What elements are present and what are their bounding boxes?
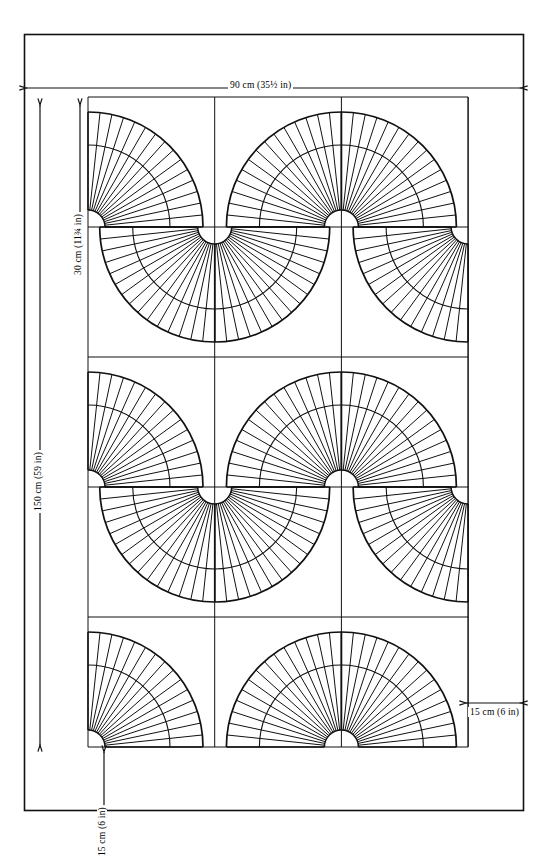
arrowhead xyxy=(459,701,466,705)
fan-spoke xyxy=(350,127,399,212)
fan-hub-arc xyxy=(341,210,358,227)
fan-spoke xyxy=(411,242,460,327)
fan-block xyxy=(88,372,203,487)
height-dimension-arrow xyxy=(38,98,42,751)
fan-spoke xyxy=(284,127,333,212)
fan-spoke xyxy=(356,690,441,739)
arrowhead xyxy=(78,98,82,105)
fan-spoke xyxy=(242,690,327,739)
fan-block xyxy=(341,632,456,747)
fan-outer-arc xyxy=(353,227,468,342)
fan-spoke xyxy=(284,647,333,732)
fan-block xyxy=(226,112,341,227)
bottom-margin-label: 15 cm (6 in) xyxy=(97,805,107,858)
fan-outer-arc xyxy=(341,372,456,487)
fan-outer-arc xyxy=(341,112,456,227)
fan-block xyxy=(215,227,330,342)
fan-spoke xyxy=(115,236,200,285)
fan-hub-arc xyxy=(215,227,232,244)
fan-spoke xyxy=(103,430,188,479)
fan-spoke xyxy=(350,647,399,732)
fan-spoke xyxy=(103,170,188,219)
fan-block xyxy=(341,372,456,487)
fan-outer-arc xyxy=(88,372,203,487)
height-dimension-label: 150 cm (59 in) xyxy=(33,450,43,513)
fan-hub-arc xyxy=(88,470,105,487)
fan-spoke xyxy=(411,502,460,587)
fan-outer-arc xyxy=(88,632,203,747)
fan-spoke xyxy=(157,242,206,327)
fan-block xyxy=(353,227,468,342)
fan-outer-arc xyxy=(88,112,203,227)
fan-spoke xyxy=(356,430,441,479)
arrowhead xyxy=(38,745,42,752)
fan-outer-arc xyxy=(353,487,468,602)
fan-hub-arc xyxy=(324,730,341,747)
fan-spoke xyxy=(229,496,314,545)
fan-block xyxy=(100,227,215,342)
fan-spoke xyxy=(242,170,327,219)
arrowhead xyxy=(521,701,528,705)
width-dimension-label: 90 cm (35½ in) xyxy=(228,80,293,90)
fan-spoke xyxy=(350,387,399,472)
fan-block xyxy=(100,487,215,602)
fan-outer-arc xyxy=(215,487,330,602)
fan-spoke xyxy=(103,690,188,739)
arrowhead xyxy=(102,745,106,752)
fan-spoke xyxy=(369,236,454,285)
fan-hub-arc xyxy=(88,210,105,227)
fan-outer-arc xyxy=(100,227,215,342)
fan-hub-arc xyxy=(215,487,232,504)
fan-hub-arc xyxy=(324,470,341,487)
fan-hub-arc xyxy=(341,470,358,487)
arrowhead xyxy=(521,86,528,90)
fan-block xyxy=(88,112,203,227)
fan-spoke xyxy=(284,387,333,472)
fan-spoke xyxy=(115,496,200,545)
fan-spoke xyxy=(97,127,146,212)
fan-hub-arc xyxy=(198,487,215,504)
fan-spoke xyxy=(97,647,146,732)
fan-outer-arc xyxy=(100,487,215,602)
fan-hub-arc xyxy=(198,227,215,244)
block-dimension-label: 30 cm (11¾ in) xyxy=(73,212,83,277)
fan-block xyxy=(341,112,456,227)
fan-outer-arc xyxy=(226,632,341,747)
fan-spoke xyxy=(97,387,146,472)
fan-outer-arc xyxy=(226,112,341,227)
fan-spoke xyxy=(229,236,314,285)
fan-block xyxy=(353,487,468,602)
fan-outer-arc xyxy=(341,632,456,747)
fan-outer-arc xyxy=(215,227,330,342)
fan-spoke xyxy=(223,502,272,587)
right-margin-label: 15 cm (6 in) xyxy=(468,707,521,717)
fan-block xyxy=(215,487,330,602)
fan-block xyxy=(88,632,203,747)
fan-hub-arc xyxy=(341,730,358,747)
fan-block xyxy=(226,372,341,487)
fan-hub-arc xyxy=(324,210,341,227)
right-margin-arrow xyxy=(459,701,527,705)
fan-spoke xyxy=(157,502,206,587)
fan-spoke xyxy=(223,242,272,327)
fan-hub-arc xyxy=(451,227,468,244)
fan-hub-arc xyxy=(451,487,468,504)
fan-spoke xyxy=(369,496,454,545)
fan-spoke xyxy=(356,170,441,219)
fan-hub-arc xyxy=(88,730,105,747)
arrowhead xyxy=(38,98,42,105)
fan-block xyxy=(226,632,341,747)
fan-outer-arc xyxy=(226,372,341,487)
fan-spoke xyxy=(242,430,327,479)
